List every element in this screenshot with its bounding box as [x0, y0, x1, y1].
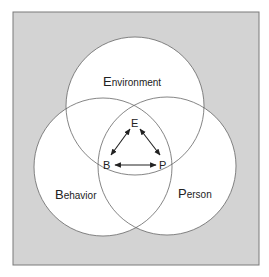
node-p: P: [159, 159, 166, 171]
venn-diagram: Environment Behavior Person E B P: [0, 0, 269, 277]
label-behavior: Behavior: [55, 187, 97, 202]
label-person: Person: [178, 186, 212, 201]
node-e: E: [131, 117, 138, 129]
node-b: B: [103, 159, 110, 171]
circle-person: [98, 97, 236, 235]
label-environment: Environment: [103, 74, 161, 89]
